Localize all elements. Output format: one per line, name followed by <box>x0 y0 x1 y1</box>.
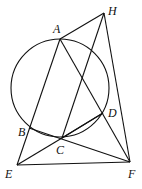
circle <box>11 39 109 137</box>
label-H: H <box>107 4 118 18</box>
segment-EC-extend <box>62 113 103 138</box>
label-E: E <box>4 167 13 181</box>
segment-EF <box>17 162 130 165</box>
geometry-diagram: A H B C D E F <box>0 0 142 189</box>
segment-AH <box>60 13 104 39</box>
label-A: A <box>52 22 61 36</box>
label-F: F <box>127 167 136 181</box>
segment-AE <box>17 39 60 165</box>
label-D: D <box>107 106 117 120</box>
label-B: B <box>18 125 26 139</box>
label-C: C <box>56 143 65 157</box>
